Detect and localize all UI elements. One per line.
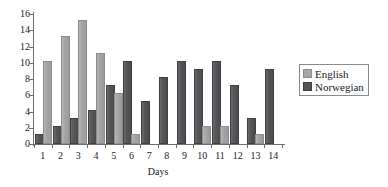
legend-swatch-english-icon bbox=[303, 69, 312, 78]
x-axis-tick bbox=[69, 144, 70, 148]
legend-swatch-norwegian-icon bbox=[303, 82, 312, 91]
y-axis-tick-label: 0 bbox=[0, 139, 30, 149]
bar-group bbox=[105, 14, 123, 144]
y-axis-tick bbox=[29, 30, 34, 31]
bar-english-day-5 bbox=[114, 93, 123, 144]
legend-item-norwegian: Norwegian bbox=[303, 80, 364, 93]
x-axis-tick bbox=[105, 144, 106, 148]
bar-norwegian-day-7 bbox=[141, 101, 150, 144]
bar-norwegian-day-9 bbox=[177, 61, 186, 144]
bar-group bbox=[176, 14, 194, 144]
y-axis-tick-label: 8 bbox=[0, 74, 30, 84]
legend-item-english: English bbox=[303, 67, 364, 80]
y-axis-tick bbox=[29, 14, 34, 15]
bar-group bbox=[87, 14, 105, 144]
y-axis-tick-label: 14 bbox=[0, 25, 30, 35]
bar-english-day-11 bbox=[220, 126, 229, 144]
bar-english-day-6 bbox=[131, 134, 140, 144]
bar-group bbox=[158, 14, 176, 144]
y-axis-tick-label: 6 bbox=[0, 90, 30, 100]
y-axis-tick bbox=[29, 128, 34, 129]
y-axis-tick bbox=[29, 95, 34, 96]
x-axis-tick bbox=[52, 144, 53, 148]
legend-label-english: English bbox=[315, 68, 349, 80]
x-axis-tick bbox=[282, 144, 283, 148]
x-axis-tick bbox=[247, 144, 248, 148]
bar-group bbox=[34, 14, 52, 144]
x-axis-tick bbox=[211, 144, 212, 148]
bar-group bbox=[247, 14, 265, 144]
bar-english-day-13 bbox=[255, 134, 264, 144]
y-axis-tick bbox=[29, 63, 34, 64]
bar-group bbox=[264, 14, 282, 144]
bar-group bbox=[52, 14, 70, 144]
y-axis-tick bbox=[29, 112, 34, 113]
x-axis-title: Days bbox=[0, 166, 316, 177]
y-axis-tick-label: 12 bbox=[0, 42, 30, 52]
bar-group bbox=[193, 14, 211, 144]
bar-english-day-1 bbox=[43, 61, 52, 144]
x-axis-tick bbox=[264, 144, 265, 148]
y-axis-tick bbox=[29, 79, 34, 80]
y-axis-tick-label: 4 bbox=[0, 107, 30, 117]
x-axis-tick bbox=[140, 144, 141, 148]
y-axis-tick-label: 16 bbox=[0, 9, 30, 19]
bar-group bbox=[229, 14, 247, 144]
bar-norwegian-day-14 bbox=[265, 69, 274, 144]
bar-english-day-2 bbox=[61, 36, 70, 144]
y-axis-labels: 0246810121416 bbox=[0, 0, 30, 187]
y-axis-tick-label: 10 bbox=[0, 58, 30, 68]
bar-group bbox=[140, 14, 158, 144]
y-axis-tick bbox=[29, 47, 34, 48]
x-axis-tick bbox=[158, 144, 159, 148]
x-axis-tick bbox=[193, 144, 194, 148]
bar-chart: 0246810121416 Days English Norwegian 123… bbox=[0, 0, 388, 187]
bar-group bbox=[69, 14, 87, 144]
bar-norwegian-day-12 bbox=[230, 85, 239, 144]
x-axis-tick bbox=[176, 144, 177, 148]
x-axis-tick bbox=[34, 144, 35, 148]
bar-norwegian-day-6 bbox=[123, 61, 132, 144]
bar-english-day-3 bbox=[78, 20, 87, 144]
bar-english-day-10 bbox=[202, 126, 211, 144]
chart-legend: English Norwegian bbox=[299, 64, 369, 96]
x-axis-tick bbox=[229, 144, 230, 148]
bar-group bbox=[123, 14, 141, 144]
x-axis-tick bbox=[87, 144, 88, 148]
bar-norwegian-day-8 bbox=[159, 77, 168, 144]
y-axis-tick-label: 2 bbox=[0, 123, 30, 133]
x-axis-tick bbox=[123, 144, 124, 148]
legend-label-norwegian: Norwegian bbox=[315, 81, 364, 93]
bar-english-day-4 bbox=[96, 53, 105, 144]
bar-group bbox=[211, 14, 229, 144]
plot-area bbox=[34, 14, 282, 144]
x-axis-tick-label: 14 bbox=[261, 150, 285, 161]
